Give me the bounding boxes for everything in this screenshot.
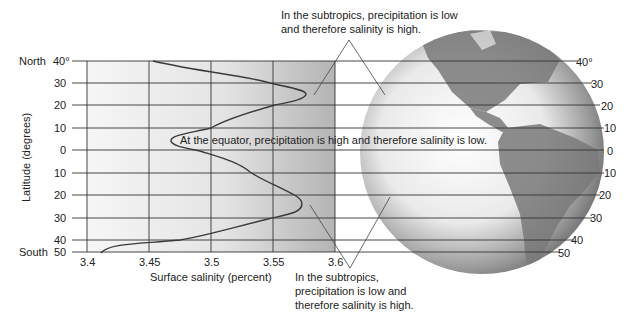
left-tick-30n: 30	[54, 77, 66, 90]
annotation-equator: At the equator, precipitation is high an…	[180, 133, 487, 147]
left-tick-20n: 20	[54, 99, 66, 112]
left-tick-0: 0	[60, 144, 66, 157]
x-tick-3-40: 3.4	[80, 256, 95, 269]
right-tick-20s: 20	[599, 189, 611, 202]
annotation-bottom: In the subtropics, precipitation is low …	[295, 270, 414, 312]
annotation-bottom-line3: therefore salinity is high.	[295, 298, 414, 312]
north-label: North	[19, 55, 46, 68]
annotation-top: In the subtropics, precipitation is low …	[281, 8, 458, 36]
right-tick-0: 0	[607, 145, 613, 158]
annotation-top-line2: and therefore salinity is high.	[281, 22, 458, 36]
x-tick-3-60: 3.6	[328, 256, 343, 269]
globe-image	[360, 30, 604, 274]
right-tick-40n: 40°	[576, 56, 593, 69]
right-tick-30s: 30	[590, 212, 602, 225]
y-axis-label: Latitude (degrees)	[20, 113, 32, 202]
x-axis-label: Surface salinity (percent)	[150, 271, 272, 284]
left-tick-30s: 30	[54, 212, 66, 225]
right-tick-10s: 10	[604, 167, 616, 180]
left-tick-10n: 10	[54, 122, 66, 135]
left-tick-20s: 20	[54, 189, 66, 202]
annotation-bottom-line1: In the subtropics,	[295, 270, 414, 284]
left-tick-10s: 10	[54, 167, 66, 180]
annotation-top-line1: In the subtropics, precipitation is low	[281, 8, 458, 22]
annotation-bottom-line2: precipitation is low and	[295, 284, 414, 298]
right-tick-10n: 10	[604, 122, 616, 135]
left-tick-40n: 40°	[53, 55, 70, 68]
right-tick-50s: 50	[558, 247, 570, 260]
x-tick-3-45: 3.45	[139, 256, 160, 269]
right-tick-40s: 40	[571, 234, 583, 247]
south-label: South	[19, 246, 48, 259]
x-tick-3-50: 3.5	[204, 256, 219, 269]
right-tick-20n: 20	[601, 100, 613, 113]
left-tick-50s: 50	[54, 246, 66, 259]
right-tick-30n: 30	[591, 78, 603, 91]
x-tick-3-55: 3.55	[263, 256, 284, 269]
